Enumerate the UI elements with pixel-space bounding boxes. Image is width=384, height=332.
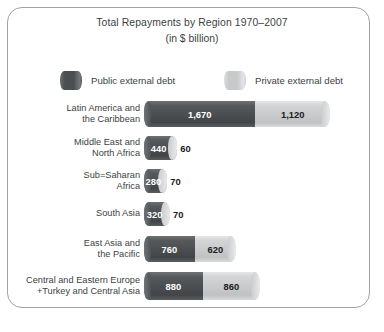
bar-category-label: South Asia: [10, 208, 140, 220]
bar-value-public: 760: [162, 244, 178, 255]
stacked-bar: 28070: [144, 169, 167, 193]
bar-value-private: 620: [207, 244, 223, 255]
bar-value-public: 280: [146, 176, 162, 187]
bar-category-label: Middle East and North Africa: [10, 137, 140, 160]
bar-segment-private: 60: [173, 136, 177, 160]
stacked-bar: 32070: [144, 202, 170, 226]
bar-segment-private: 1,120: [255, 101, 330, 127]
bar-value-public: 320: [147, 209, 163, 220]
bar-segment-private: 860: [203, 272, 260, 300]
bar-category-label: East Asia and the Pacific: [10, 238, 140, 261]
stacked-bar: 760620: [144, 236, 236, 262]
bar-value-private: 70: [170, 176, 180, 187]
bar-segment-private: 70: [163, 169, 168, 193]
stacked-bar: 44060: [144, 136, 177, 160]
bar-value-public: 880: [166, 281, 182, 292]
bar-value-public: 1,670: [188, 109, 211, 120]
bar-segment-private: 620: [195, 236, 236, 262]
bar-category-label: Central and Eastern Europe +Turkey and C…: [10, 275, 140, 298]
bar-segment-public: 760: [144, 236, 195, 262]
stacked-bar: 1,6701,120: [144, 101, 330, 127]
bar-category-label: Sub=Saharan Africa: [10, 170, 140, 193]
bar-category-label: Latin America and the Caribbean: [10, 103, 140, 126]
chart-plot-area: Latin America and the Caribbean1,6701,12…: [0, 0, 384, 332]
bar-segment-public: 1,670: [144, 101, 255, 127]
stacked-bar: 880860: [144, 272, 260, 300]
bar-value-private: 70: [173, 209, 183, 220]
bar-segment-private: 70: [165, 202, 170, 226]
bar-value-private: 60: [180, 143, 190, 154]
bar-value-private: 860: [223, 281, 239, 292]
bar-segment-public: 880: [144, 272, 203, 300]
bar-value-private: 1,120: [281, 109, 304, 120]
bar-value-public: 440: [151, 143, 167, 154]
